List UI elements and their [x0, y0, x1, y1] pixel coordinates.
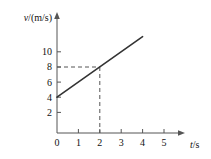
x-axis-title-unit: /s: [193, 139, 200, 150]
axes-group: [54, 12, 185, 136]
x-tick-label-4: 4: [140, 137, 145, 148]
x-tick-label-2: 2: [97, 137, 102, 148]
x-axis-ticks: [78, 129, 164, 133]
guide-lines-group: [57, 67, 100, 133]
y-tick-labels: 10 8 6 4 2: [42, 46, 52, 118]
y-tick-label-4: 4: [47, 92, 52, 103]
y-tick-label-6: 6: [47, 77, 52, 88]
y-axis-title-unit: /(m/s): [28, 12, 52, 24]
x-axis-title: t/s: [190, 139, 200, 150]
x-axis-arrow-icon: [178, 130, 185, 136]
y-axis-title: v/(m/s): [24, 12, 52, 24]
y-axis-ticks: [57, 52, 61, 113]
x-tick-label-1: 1: [76, 137, 81, 148]
plot-canvas: 10 8 6 4 2 0 1 2 3 4 5 v/(m/s) t/s: [0, 0, 211, 159]
velocity-time-graph-figure: 10 8 6 4 2 0 1 2 3 4 5 v/(m/s) t/s: [0, 0, 211, 159]
y-tick-label-2: 2: [47, 107, 52, 118]
x-tick-label-5: 5: [162, 137, 167, 148]
y-axis-arrow-icon: [54, 12, 60, 19]
x-tick-labels: 0 1 2 3 4 5: [55, 137, 167, 148]
y-tick-label-10: 10: [42, 46, 52, 57]
y-tick-label-8: 8: [47, 61, 52, 72]
x-tick-label-3: 3: [119, 137, 124, 148]
x-tick-label-0: 0: [55, 137, 60, 148]
